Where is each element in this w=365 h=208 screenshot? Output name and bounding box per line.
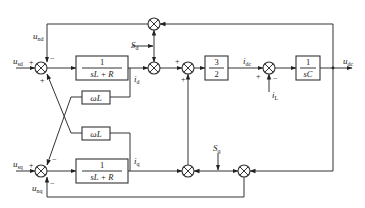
- capacitor-denominator: sC: [304, 69, 313, 79]
- capacitor-numerator: 1: [306, 57, 310, 67]
- summer-q: [35, 165, 47, 177]
- label-iq: iq: [134, 156, 140, 167]
- label-Sd: Sd: [131, 40, 139, 51]
- block-gain: 3 2: [205, 56, 228, 80]
- block-plant-d: 1 sL + R: [76, 56, 128, 80]
- sign-sum-q-in: +: [29, 161, 34, 170]
- gain-denominator: 2: [214, 69, 218, 79]
- label-udc: udc: [343, 56, 354, 67]
- control-block-diagram: 1 sL + R 1 sL + R ωL ωL 3 2 1 sC: [0, 0, 365, 208]
- sign-sum-d-in: +: [29, 58, 34, 67]
- block-plant-q: 1 sL + R: [76, 159, 128, 183]
- sign-sum-d-fb: −: [50, 54, 55, 63]
- label-iL: iL: [272, 90, 279, 101]
- label-id: id: [134, 74, 140, 85]
- plant-q-numerator: 1: [100, 160, 104, 170]
- multiplier-d: [148, 62, 160, 74]
- sign-sum-q-fb: −: [50, 179, 55, 188]
- plant-q-denominator: sL + R: [90, 172, 114, 182]
- sign-sum-dq-bottom: +: [181, 75, 186, 84]
- plant-d-denominator: sL + R: [90, 69, 114, 79]
- block-capacitor: 1 sC: [296, 56, 320, 80]
- wire-coupling2-out: [47, 74, 82, 133]
- multiplier-top: [148, 18, 160, 30]
- block-coupling-2: ωL: [82, 127, 110, 140]
- sign-sum-dc-load: −: [273, 74, 278, 83]
- sign-sum-q-cross: −: [52, 155, 57, 164]
- label-und: und: [33, 31, 44, 42]
- label-unq: unq: [32, 183, 43, 194]
- label-Sq: Sq: [213, 143, 221, 154]
- multiplier-q: [238, 165, 250, 177]
- multiplier-q-left: [182, 165, 194, 177]
- label-usq: usq: [13, 159, 23, 170]
- sign-sum-dq-top: +: [175, 57, 180, 66]
- wire-udc-feedback-bottom: [250, 68, 333, 171]
- coupling-1-label: ωL: [90, 93, 101, 103]
- sign-sum-d-cross: +: [40, 76, 45, 85]
- plant-d-numerator: 1: [100, 57, 104, 67]
- label-idc: idc: [243, 56, 252, 67]
- block-coupling-1: ωL: [82, 91, 110, 104]
- gain-numerator: 3: [214, 57, 218, 67]
- coupling-2-label: ωL: [90, 129, 101, 139]
- summer-d: [35, 62, 47, 74]
- sign-sum-dc-in: +: [256, 72, 261, 81]
- summer-dc: [263, 62, 275, 74]
- label-usd: usd: [13, 56, 23, 67]
- summer-dq: [182, 62, 194, 74]
